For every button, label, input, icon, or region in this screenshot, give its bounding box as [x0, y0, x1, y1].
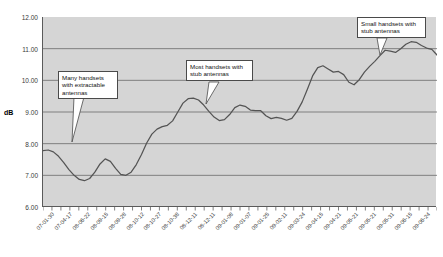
- annotation-extractable-line-1: Many handsets: [62, 74, 114, 81]
- annotation-extractable-line-3: antennas: [62, 89, 114, 96]
- annotation-stub-line-2: stub antennas: [190, 70, 249, 77]
- callout-tails: [0, 0, 443, 257]
- callout-tail-extractable: [72, 97, 84, 142]
- chart-container: 12.00 11.00 10.00 9.00 8.00 7.00 6.00 dB: [0, 0, 443, 257]
- annotation-small: Small handsets with stub antennas: [357, 17, 426, 38]
- annotation-small-line-1: Small handsets with: [361, 20, 422, 27]
- annotation-small-line-2: stub antennas: [361, 27, 422, 34]
- annotation-extractable: Many handsets with extractable antennas: [58, 71, 118, 99]
- annotation-stub: Most handsets with stub antennas: [186, 60, 253, 81]
- annotation-stub-line-1: Most handsets with: [190, 63, 249, 70]
- annotation-extractable-line-2: with extractable: [62, 81, 114, 88]
- callout-tail-stub: [206, 82, 219, 104]
- callout-tail-small: [377, 38, 387, 55]
